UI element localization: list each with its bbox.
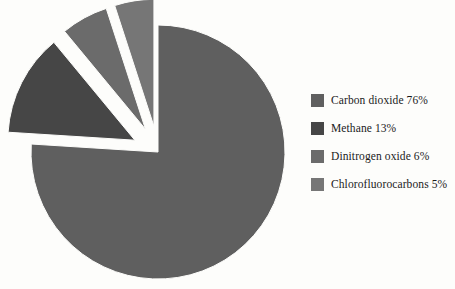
legend-item-chlorofluorocarbons[interactable]: Chlorofluorocarbons 5% <box>311 170 455 198</box>
legend-label-chlorofluorocarbons: Chlorofluorocarbons 5% <box>331 178 447 190</box>
pie-chart-graphic <box>0 0 300 289</box>
pie-chart-page: Carbon dioxide 76% Methane 13% Dinitroge… <box>0 0 455 289</box>
pie-slices <box>8 0 285 279</box>
legend-label-carbon-dioxide: Carbon dioxide 76% <box>331 94 428 106</box>
legend-swatch-icon-methane <box>311 122 324 135</box>
legend-item-methane[interactable]: Methane 13% <box>311 114 455 142</box>
pie-svg <box>0 0 300 289</box>
legend-item-dinitrogen-oxide[interactable]: Dinitrogen oxide 6% <box>311 142 455 170</box>
legend-swatch-icon-carbon-dioxide <box>311 94 324 107</box>
legend-label-dinitrogen-oxide: Dinitrogen oxide 6% <box>331 150 429 162</box>
legend-swatch-icon-dinitrogen-oxide <box>311 150 324 163</box>
legend-label-methane: Methane 13% <box>331 122 396 134</box>
chart-legend: Carbon dioxide 76% Methane 13% Dinitroge… <box>311 86 455 198</box>
legend-swatch-icon-chlorofluorocarbons <box>311 178 324 191</box>
legend-item-carbon-dioxide[interactable]: Carbon dioxide 76% <box>311 86 455 114</box>
